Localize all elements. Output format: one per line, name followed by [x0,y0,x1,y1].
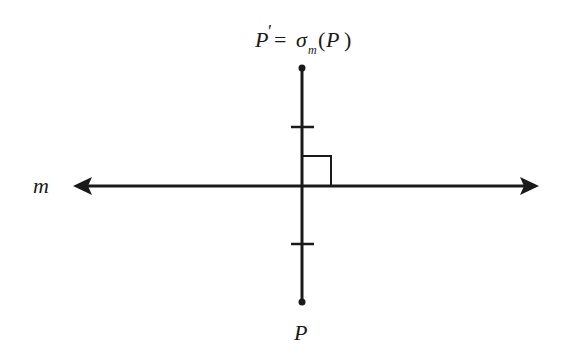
image-label: P ′ = σ m ( P ) [254,22,351,57]
arg-p: P [325,27,339,52]
reflection-diagram: m P P ′ = σ m ( P ) [0,0,568,363]
sigma-subscript: m [308,43,317,57]
close-paren: ) [344,27,351,52]
point-p-prime [299,65,306,72]
point-p [299,299,306,306]
p-prime-letter: P [254,27,268,52]
right-angle-marker [302,156,331,186]
prime-mark: ′ [268,22,272,42]
sigma-symbol: σ [296,27,308,52]
equals-sign: = [274,27,286,52]
point-p-label: P [293,320,307,345]
line-m-label: m [33,173,49,198]
line-m [73,177,539,195]
open-paren: ( [318,27,325,52]
